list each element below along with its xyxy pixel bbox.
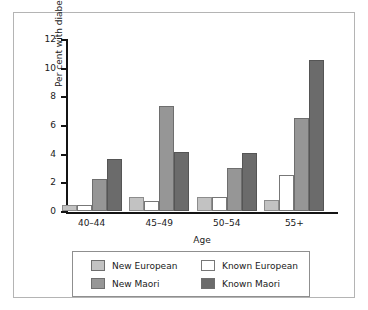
y-axis-tick-label: 10 bbox=[34, 64, 56, 73]
bar bbox=[144, 201, 159, 211]
bar bbox=[174, 152, 189, 211]
y-axis-tick-label: 6 bbox=[34, 121, 56, 130]
bar bbox=[77, 205, 92, 211]
y-axis-tick-label: 0 bbox=[34, 207, 56, 216]
legend-entry: Known Maori bbox=[201, 278, 280, 289]
y-axis-tick-label: 8 bbox=[34, 92, 56, 101]
legend-label: Known Maori bbox=[222, 279, 280, 289]
legend: New EuropeanKnown EuropeanNew MaoriKnown… bbox=[72, 251, 310, 297]
bar bbox=[279, 175, 294, 211]
y-axis-tick-label: 2 bbox=[34, 178, 56, 187]
x-axis-title: Age bbox=[66, 235, 338, 245]
legend-entry: Known European bbox=[201, 260, 298, 271]
legend-label: New Maori bbox=[112, 279, 159, 289]
bar bbox=[92, 179, 107, 211]
bar bbox=[242, 153, 257, 211]
x-axis-tick-label: 45–49 bbox=[125, 218, 193, 228]
y-axis-tick-label: 4 bbox=[34, 150, 56, 159]
x-axis-tick-label: 55+ bbox=[260, 218, 328, 228]
x-axis-tick-label: 50–54 bbox=[193, 218, 261, 228]
bar-group bbox=[197, 27, 263, 213]
bar bbox=[107, 159, 122, 211]
legend-swatch bbox=[91, 260, 105, 271]
legend-label: Known European bbox=[222, 261, 298, 271]
legend-swatch bbox=[201, 278, 215, 289]
bar bbox=[212, 197, 227, 211]
legend-swatch bbox=[91, 278, 105, 289]
bar bbox=[264, 200, 279, 211]
plot-area: Per cent with diabetes 024681012 40–4445… bbox=[66, 27, 338, 213]
bar-group bbox=[129, 27, 195, 213]
bar bbox=[197, 197, 212, 211]
bar-group bbox=[264, 27, 330, 213]
bar-group bbox=[62, 27, 128, 213]
y-axis-tick-label: 12 bbox=[34, 35, 56, 44]
bar bbox=[62, 205, 77, 211]
bar bbox=[227, 168, 242, 211]
bar bbox=[129, 197, 144, 211]
figure-frame: Per cent with diabetes 024681012 40–4445… bbox=[13, 12, 355, 298]
legend-entry: New European bbox=[91, 260, 177, 271]
bar bbox=[294, 118, 309, 211]
bar bbox=[309, 60, 324, 211]
legend-label: New European bbox=[112, 261, 177, 271]
legend-entry: New Maori bbox=[91, 278, 159, 289]
legend-swatch bbox=[201, 260, 215, 271]
bar bbox=[159, 106, 174, 211]
x-axis-tick-label: 40–44 bbox=[58, 218, 126, 228]
